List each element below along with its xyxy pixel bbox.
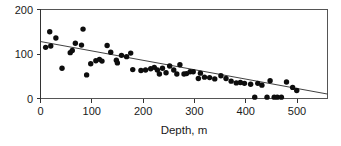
data-point xyxy=(259,82,264,87)
data-point xyxy=(73,41,78,46)
data-point xyxy=(191,69,196,74)
data-point xyxy=(218,73,223,78)
data-point xyxy=(124,54,129,59)
data-point xyxy=(115,60,120,65)
data-point xyxy=(70,48,75,53)
plot-frame xyxy=(41,10,328,99)
data-point xyxy=(174,71,179,76)
data-point xyxy=(228,78,233,83)
x-axis-ticks xyxy=(41,99,298,104)
data-point xyxy=(264,94,269,99)
data-point xyxy=(242,81,247,86)
data-point xyxy=(252,94,257,99)
regression-line xyxy=(41,42,328,95)
scatter-plot: 200 100 0 0 100 200 300 400 500 Depth, m xyxy=(0,0,341,146)
data-point xyxy=(130,67,135,72)
data-point xyxy=(80,26,85,31)
y-tick-label-200: 200 xyxy=(15,4,33,16)
data-point xyxy=(223,76,228,81)
data-point xyxy=(196,76,201,81)
data-point xyxy=(59,66,64,71)
data-point xyxy=(48,43,53,48)
y-axis-ticks xyxy=(37,10,41,99)
data-point xyxy=(108,50,113,55)
data-point xyxy=(88,61,93,66)
data-point xyxy=(138,68,143,73)
data-point xyxy=(177,62,182,67)
x-tick-label-0: 0 xyxy=(37,105,43,117)
x-tick-label-100: 100 xyxy=(83,105,101,117)
regression-line-layer xyxy=(41,42,328,95)
data-point xyxy=(167,63,172,68)
data-point xyxy=(279,94,284,99)
data-point xyxy=(84,72,89,77)
y-axis-tick-labels: 200 100 0 xyxy=(15,4,33,105)
data-point xyxy=(99,58,104,63)
data-point xyxy=(248,82,253,87)
data-point xyxy=(47,29,52,34)
data-point xyxy=(160,66,165,71)
y-tick-label-100: 100 xyxy=(15,48,33,60)
data-point xyxy=(79,42,84,47)
data-point xyxy=(128,50,133,55)
data-point xyxy=(143,67,148,72)
data-point xyxy=(198,70,203,75)
data-points-layer xyxy=(43,26,300,99)
data-point xyxy=(163,70,168,75)
y-tick-label-0: 0 xyxy=(27,93,33,105)
x-tick-label-400: 400 xyxy=(237,105,255,117)
x-tick-label-200: 200 xyxy=(134,105,152,117)
x-tick-label-500: 500 xyxy=(288,105,306,117)
data-point xyxy=(53,35,58,40)
data-point xyxy=(119,53,124,58)
data-point xyxy=(294,88,299,93)
data-point xyxy=(157,71,162,76)
data-point xyxy=(104,43,109,48)
x-axis-title: Depth, m xyxy=(161,124,208,136)
data-point xyxy=(267,78,272,83)
chart-figure: 200 100 0 0 100 200 300 400 500 Depth, m xyxy=(0,0,341,146)
data-point xyxy=(284,79,289,84)
data-point xyxy=(202,74,207,79)
x-tick-label-300: 300 xyxy=(185,105,203,117)
data-point xyxy=(43,45,48,50)
x-axis-tick-labels: 0 100 200 300 400 500 xyxy=(37,105,306,117)
data-point xyxy=(207,75,212,80)
data-point xyxy=(212,76,217,81)
